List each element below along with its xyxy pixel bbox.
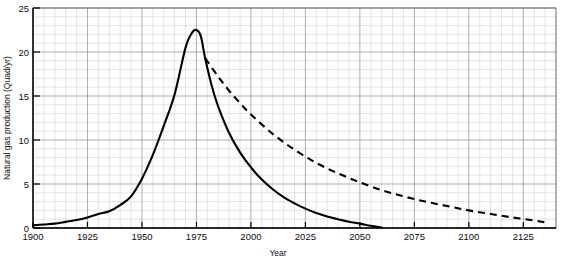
x-tick-label: 1975 <box>186 231 207 242</box>
production-curve-dashed <box>205 58 547 223</box>
x-tick-label: 1900 <box>22 231 43 242</box>
x-tick-label: 1925 <box>77 231 98 242</box>
y-axis-ticks: 0510152025 <box>18 3 40 234</box>
y-tick-label: 10 <box>18 135 29 146</box>
x-tick-label: 2125 <box>513 231 534 242</box>
x-tick-label: 1950 <box>131 231 152 242</box>
y-tick-label: 25 <box>18 3 29 14</box>
x-tick-label: 2050 <box>349 231 370 242</box>
x-axis-title: Year <box>269 248 286 258</box>
grid-minor <box>33 8 556 228</box>
chart-figure: 0510152025 19001925195019752000202520502… <box>0 0 566 262</box>
x-tick-label: 2075 <box>404 231 425 242</box>
y-tick-label: 5 <box>24 179 29 190</box>
y-axis-title: Natural gas production (Quad/yr) <box>2 56 12 180</box>
x-tick-label: 2100 <box>458 231 479 242</box>
x-tick-label: 2000 <box>240 231 261 242</box>
x-axis-ticks: 1900192519501975200020252050207521002125 <box>22 222 533 242</box>
y-tick-label: 20 <box>18 47 29 58</box>
x-tick-label: 2025 <box>295 231 316 242</box>
natural-gas-production-chart: 0510152025 19001925195019752000202520502… <box>0 0 566 262</box>
y-tick-label: 15 <box>18 91 29 102</box>
